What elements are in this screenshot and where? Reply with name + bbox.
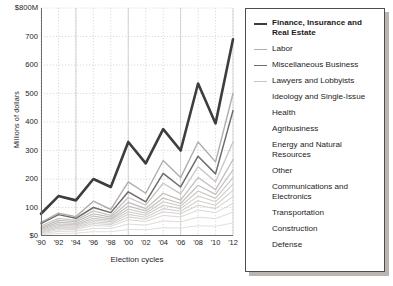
legend-item-label: Health (272, 108, 295, 118)
legend-swatch-cell (254, 124, 272, 129)
x-tick-label: '96 (89, 238, 99, 247)
legend-item-label: Ideology and Single-Issue (272, 92, 365, 102)
legend-item[interactable]: Finance, Insurance and Real Estate (254, 18, 378, 37)
x-tick-label: '12 (228, 238, 238, 247)
legend-swatch-cell (254, 108, 272, 113)
legend-item-label: Energy and Natural Resources (272, 140, 378, 159)
legend-swatch-cell (254, 18, 272, 25)
legend-line-swatch (254, 81, 267, 82)
legend-item-label: Agribusiness (272, 124, 318, 134)
chart-legend: Finance, Insurance and Real EstateLaborM… (245, 8, 385, 272)
legend-item[interactable]: Health (254, 108, 378, 118)
legend-swatch-cell (254, 224, 272, 229)
y-tick-label: 200 (25, 175, 38, 183)
y-tick-label: 500 (25, 90, 38, 98)
legend-item[interactable]: Miscellaneous Business (254, 60, 378, 70)
legend-line-swatch (254, 65, 267, 66)
legend-swatch-cell (254, 76, 272, 82)
x-tick-label: '08 (193, 238, 203, 247)
legend-swatch-cell (254, 92, 272, 97)
legend-item-label: Defense (272, 240, 302, 250)
legend-item[interactable]: Transportation (254, 208, 378, 218)
legend-swatch-cell (254, 60, 272, 66)
legend-swatch-cell (254, 208, 272, 213)
legend-swatch-cell (254, 140, 272, 145)
legend-item[interactable]: Energy and Natural Resources (254, 140, 378, 159)
legend-item[interactable]: Construction (254, 224, 378, 234)
y-tick-label: 300 (25, 147, 38, 155)
legend-item[interactable]: Ideology and Single-Issue (254, 92, 378, 102)
legend-swatch-cell (254, 240, 272, 245)
x-tick-label: '04 (158, 238, 168, 247)
legend-line-swatch (254, 23, 267, 25)
legend-item[interactable]: Agribusiness (254, 124, 378, 134)
y-tick-label: 700 (25, 33, 38, 41)
legend-item-label: Finance, Insurance and Real Estate (272, 18, 378, 37)
legend-swatch-cell (254, 44, 272, 50)
legend-item-label: Miscellaneous Business (272, 60, 358, 70)
legend-item[interactable]: Other (254, 166, 378, 176)
x-tick-label: '90 (36, 238, 46, 247)
x-tick-label: '94 (71, 238, 81, 247)
x-tick-label: '00 (123, 238, 133, 247)
y-tick-label: 600 (25, 61, 38, 69)
x-tick-label: '98 (106, 238, 116, 247)
x-axis-tick-labels: '90'92'94'96'98'00'02'04'06'08'10'12 (41, 238, 233, 250)
legend-line-swatch (254, 49, 267, 50)
legend-item[interactable]: Communications and Electronics (254, 182, 378, 201)
y-tick-label: $800M (15, 4, 38, 12)
legend-item[interactable]: Labor (254, 44, 378, 54)
y-tick-label: 100 (25, 204, 38, 212)
legend-item-label: Labor (272, 44, 293, 54)
legend-item-label: Construction (272, 224, 317, 234)
x-axis-title: Election cycles (41, 255, 233, 264)
x-tick-label: '10 (211, 238, 221, 247)
legend-item[interactable]: Lawyers and Lobbyists (254, 76, 378, 86)
legend-item[interactable]: Defense (254, 240, 378, 250)
legend-item-label: Other (272, 166, 292, 176)
legend-swatch-cell (254, 182, 272, 187)
x-tick-label: '06 (176, 238, 186, 247)
legend-item-label: Lawyers and Lobbyists (272, 76, 354, 86)
chart-figure: Millions of dollars $800M700600500400300… (0, 0, 393, 286)
x-tick-label: '02 (141, 238, 151, 247)
plot-axis-frame (41, 8, 233, 236)
legend-item-label: Transportation (272, 208, 324, 218)
y-axis-tick-labels: $800M700600500400300200100$0 (0, 0, 38, 236)
legend-swatch-cell (254, 166, 272, 171)
plot-area (41, 8, 233, 236)
y-tick-label: 400 (25, 118, 38, 126)
x-tick-label: '92 (54, 238, 64, 247)
legend-item-label: Communications and Electronics (272, 182, 378, 201)
